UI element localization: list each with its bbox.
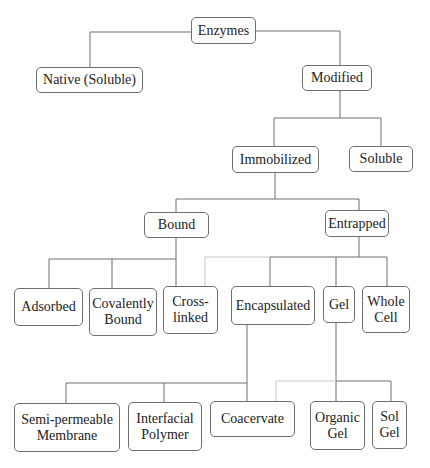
node-bound: Bound [144, 212, 209, 238]
node-whole-cell: Whole Cell [362, 286, 410, 333]
node-native-soluble: Native (Soluble) [36, 67, 143, 93]
node-interfacial-polymer: Interfacial Polymer [128, 402, 202, 451]
node-enzymes: Enzymes [191, 17, 256, 44]
node-soluble: Soluble [349, 146, 413, 172]
node-organic-gel: Organic Gel [310, 401, 365, 450]
node-semi-permeable-membrane: Semi-permeable Membrane [14, 403, 120, 452]
node-sol-gel: Sol Gel [372, 401, 407, 449]
node-modified: Modified [302, 65, 372, 91]
node-covalently-bound: Covalently Bound [89, 288, 157, 336]
node-encapsulated: Encapsulated [231, 286, 315, 325]
node-gel: Gel [323, 286, 355, 323]
node-entrapped: Entrapped [325, 210, 389, 237]
node-immobilized: Immobilized [232, 146, 319, 173]
node-adsorbed: Adsorbed [14, 288, 83, 326]
enzyme-classification-diagram: Enzymes Native (Soluble) Modified Immobi… [0, 0, 430, 468]
node-cross-linked: Cross- linked [163, 286, 218, 334]
node-coacervate: Coacervate [210, 401, 295, 437]
